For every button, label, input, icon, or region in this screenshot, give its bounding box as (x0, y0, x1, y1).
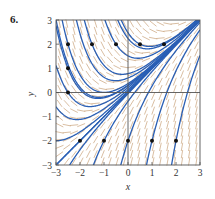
slope-segment (57, 92, 61, 99)
slope-segment (188, 92, 190, 100)
initial-point (126, 139, 130, 143)
y-tick-label: 2 (47, 40, 52, 50)
slope-segment (137, 121, 140, 129)
slope-segment (160, 150, 162, 158)
slope-segment (115, 27, 119, 35)
slope-segment (56, 152, 63, 157)
slope-segment (181, 157, 182, 165)
slope-segment (166, 78, 169, 86)
y-tick-label: 1 (47, 64, 52, 74)
slope-segment (84, 110, 92, 111)
slope-segment (101, 150, 104, 158)
slope-segment (87, 158, 90, 166)
slope-segment (109, 157, 112, 165)
slope-segment (73, 27, 75, 35)
slope-segment (173, 78, 176, 86)
slope-segment (167, 121, 169, 129)
slope-segment (77, 124, 85, 127)
slope-segment (188, 70, 191, 78)
slope-segment (160, 143, 162, 151)
slope-segment (196, 143, 197, 151)
slope-segment (171, 29, 179, 32)
slope-segment (87, 41, 90, 49)
slope-segment (123, 128, 126, 136)
x-axis-label: x (125, 181, 131, 192)
slope-segment (149, 29, 157, 33)
slope-segment (64, 100, 70, 106)
slope-segment (144, 85, 148, 92)
slope-segment (138, 143, 140, 151)
slope-segment (80, 49, 83, 57)
slope-segment (123, 157, 125, 165)
slope-segment (174, 121, 176, 129)
slope-segment (56, 115, 63, 120)
slope-segment (94, 34, 97, 42)
initial-point (102, 139, 106, 143)
slope-segment (65, 78, 69, 86)
x-tick-label: 3 (198, 168, 203, 178)
slope-segment (178, 22, 186, 25)
slope-segment (195, 92, 197, 100)
slope-segment (101, 20, 104, 28)
slope-segment (63, 144, 70, 149)
slope-segment (181, 150, 182, 158)
slope-segment (156, 38, 164, 39)
slope-segment (144, 107, 147, 115)
slope-segment (188, 107, 190, 115)
y-axis-label: y (25, 91, 36, 97)
slope-segment (113, 81, 121, 82)
slope-segment (58, 63, 61, 71)
slope-segment (142, 36, 150, 40)
slope-segment (64, 108, 71, 113)
slope-field-chart: −3−2−10123−3−2−10123 x y (0, 0, 215, 199)
slope-segment (116, 157, 118, 165)
slope-segment (131, 157, 133, 165)
slope-segment (86, 150, 90, 157)
slope-segment (181, 99, 183, 107)
slope-segment (63, 124, 71, 126)
slope-segment (137, 93, 141, 100)
slope-segment (160, 157, 162, 165)
slope-segment (163, 30, 171, 31)
slope-segment (123, 121, 126, 129)
slope-segment (73, 34, 75, 42)
slope-segment (101, 27, 104, 35)
slope-segment (129, 20, 133, 27)
slope-segment (86, 71, 91, 78)
slope-segment (78, 93, 85, 98)
slope-segment (136, 28, 142, 34)
slope-segment (196, 135, 197, 143)
slope-segment (187, 49, 191, 56)
slope-segment (130, 107, 134, 114)
slope-segment (121, 58, 129, 62)
slope-segment (195, 78, 197, 86)
slope-segment (159, 128, 161, 136)
slope-segment (152, 121, 154, 129)
slope-segment (109, 150, 112, 158)
slope-segment (58, 49, 60, 57)
slope-segment (138, 128, 141, 136)
slope-segment (142, 58, 150, 61)
slope-segment (195, 99, 197, 107)
slope-segment (145, 114, 148, 122)
slope-segment (188, 114, 190, 122)
slope-segment (80, 56, 83, 64)
slope-segment (59, 20, 61, 28)
slope-segment (91, 103, 99, 104)
slope-segment (152, 157, 154, 165)
slope-segment (174, 157, 175, 165)
slope-segment (166, 107, 168, 115)
slope-segment (136, 20, 141, 27)
slope-segment (108, 136, 111, 144)
slope-segment (122, 42, 128, 48)
y-tick-label: 3 (47, 16, 52, 26)
slope-segment (136, 35, 143, 40)
slope-segment (145, 136, 147, 144)
slope-segment (180, 63, 183, 71)
slope-segment (159, 136, 161, 144)
slope-segment (158, 78, 162, 85)
initial-point (162, 42, 166, 46)
slope-segment (151, 92, 154, 100)
slope-segment (159, 92, 162, 100)
slope-segment (130, 114, 133, 122)
